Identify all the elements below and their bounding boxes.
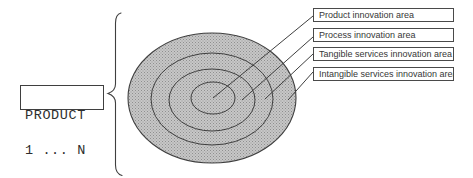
product-box-line1: PRODUCT bbox=[25, 110, 103, 122]
label-tangible-services-innovation-area: Tangible services innovation area bbox=[319, 49, 452, 59]
diagram-canvas: PRODUCT 1 ... N Product innovation area … bbox=[0, 0, 473, 178]
label-box-product-innovation-area: Product innovation area bbox=[313, 8, 454, 22]
label-product-innovation-area: Product innovation area bbox=[319, 10, 414, 20]
label-box-tangible-services-innovation-area: Tangible services innovation area bbox=[313, 47, 454, 61]
label-process-innovation-area: Process innovation area bbox=[319, 30, 416, 40]
label-box-intangible-services-innovation-area: Intangible services innovation area bbox=[313, 67, 454, 81]
curly-brace-icon bbox=[108, 13, 122, 176]
label-intangible-services-innovation-area: Intangible services innovation area bbox=[319, 69, 454, 79]
product-box-line2: 1 ... N bbox=[25, 145, 103, 157]
label-box-process-innovation-area: Process innovation area bbox=[313, 28, 454, 42]
product-box: PRODUCT 1 ... N bbox=[20, 85, 104, 110]
